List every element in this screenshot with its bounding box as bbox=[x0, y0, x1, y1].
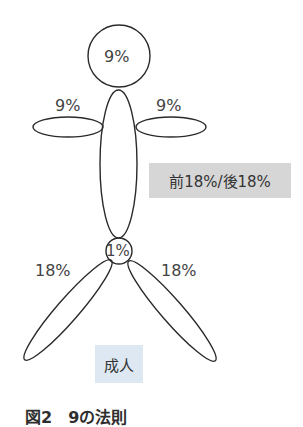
head-percentage: 9% bbox=[104, 49, 129, 65]
right-leg-percentage: 18% bbox=[161, 263, 197, 279]
figure-caption: 図2 9の法則 bbox=[25, 404, 127, 427]
subject-label: 成人 bbox=[104, 354, 134, 375]
trunk-label-box: 前18%/後18% bbox=[149, 163, 291, 198]
trunk-percentage: 前18%/後18% bbox=[169, 170, 271, 191]
subject-label-box: 成人 bbox=[95, 345, 143, 383]
left-arm-percentage: 9% bbox=[55, 98, 80, 114]
genital-percentage: 1% bbox=[106, 244, 130, 259]
rule-of-nines-figure bbox=[0, 0, 303, 427]
left-leg-percentage: 18% bbox=[35, 263, 71, 279]
right-arm-shape bbox=[136, 117, 206, 137]
left-arm-shape bbox=[33, 117, 103, 137]
right-arm-percentage: 9% bbox=[156, 98, 181, 114]
trunk-shape bbox=[100, 90, 137, 238]
